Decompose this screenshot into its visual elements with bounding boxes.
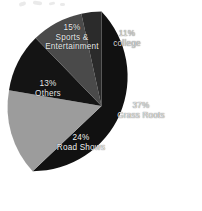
- pie-chart: 11% college 37% Grass Roots 24% Road Sho…: [0, 0, 202, 211]
- pie-slices: [8, 12, 128, 172]
- pie-chart-graphic: [0, 0, 202, 211]
